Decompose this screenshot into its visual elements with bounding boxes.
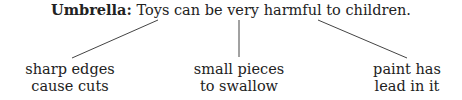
branch-small-pieces: small pieces to swallow <box>189 61 289 95</box>
connector-left <box>72 20 158 58</box>
connector-right <box>318 20 407 58</box>
branch-line1: sharp edges <box>20 61 120 78</box>
branch-sharp-edges: sharp edges cause cuts <box>20 61 120 95</box>
branch-line2: cause cuts <box>20 78 120 95</box>
branch-line1: small pieces <box>189 61 289 78</box>
branch-line1: paint has <box>357 61 457 78</box>
branch-line2: to swallow <box>189 78 289 95</box>
branch-paint-lead: paint has lead in it <box>357 61 457 95</box>
branch-line2: lead in it <box>357 78 457 95</box>
